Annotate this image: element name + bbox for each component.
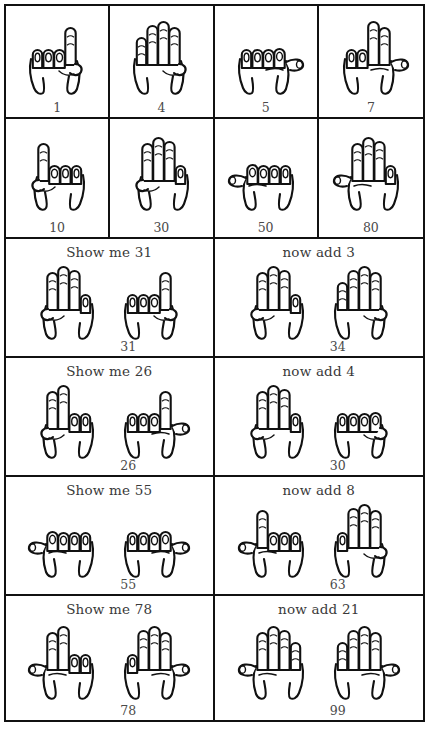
cell-value: 80 bbox=[319, 220, 423, 235]
cell-prompt: Show me 78 bbox=[6, 601, 213, 617]
chart-cell: Show me 7878 bbox=[6, 596, 215, 720]
chart-cell: now add 863 bbox=[215, 477, 424, 594]
hand-illustration-group bbox=[6, 123, 108, 219]
hand-illustration-group bbox=[215, 378, 424, 459]
chart-cell: 80 bbox=[319, 119, 423, 237]
cell-value: 1 bbox=[6, 100, 108, 115]
chart-row-3: Show me 3131now add 334 bbox=[6, 239, 423, 358]
cell-value: 30 bbox=[215, 458, 424, 473]
hand-seven-icon bbox=[331, 12, 411, 98]
chart-cell: 50 bbox=[215, 119, 319, 237]
hand-zero-icon bbox=[322, 376, 402, 462]
chart-row-6: Show me 7878now add 2199 bbox=[6, 596, 423, 720]
hand-five-icon bbox=[226, 128, 306, 214]
hand-eight-icon bbox=[112, 617, 192, 703]
chart-cell: now add 2199 bbox=[215, 596, 424, 720]
hand-three-icon bbox=[322, 495, 402, 581]
hand-one-icon bbox=[17, 128, 97, 214]
chart-cell: Show me 2626 bbox=[6, 358, 215, 475]
chart-row-5: Show me 5555now add 863 bbox=[6, 477, 423, 596]
chart-cell: now add 334 bbox=[215, 239, 424, 356]
chart-row-4: Show me 2626now add 430 bbox=[6, 358, 423, 477]
hand-illustration-group bbox=[6, 497, 213, 578]
chart-cell: Show me 5555 bbox=[6, 477, 215, 594]
cell-value: 7 bbox=[319, 100, 423, 115]
hand-five-icon bbox=[112, 495, 192, 581]
cell-value: 55 bbox=[6, 577, 213, 592]
hand-two-icon bbox=[26, 376, 106, 462]
hand-illustration-group bbox=[6, 10, 108, 99]
cell-value: 4 bbox=[110, 100, 212, 115]
chart-cell: 10 bbox=[6, 119, 110, 237]
hand-illustration-group bbox=[319, 123, 423, 219]
chart-row-2: 10305080 bbox=[6, 119, 423, 239]
hand-six-icon bbox=[236, 495, 316, 581]
hand-three-icon bbox=[121, 128, 201, 214]
hand-five-icon bbox=[226, 12, 306, 98]
chart-cell: Show me 3131 bbox=[6, 239, 215, 356]
hand-three-icon bbox=[26, 257, 106, 343]
finger-counting-chart: 145710305080Show me 3131now add 334Show … bbox=[4, 4, 425, 722]
cell-value: 99 bbox=[215, 703, 424, 718]
hand-illustration-group bbox=[6, 616, 213, 704]
hand-illustration-group bbox=[110, 10, 212, 99]
cell-prompt: now add 21 bbox=[215, 601, 424, 617]
hand-illustration-group bbox=[215, 497, 424, 578]
hand-five-icon bbox=[26, 495, 106, 581]
hand-six-icon bbox=[112, 376, 192, 462]
cell-value: 30 bbox=[110, 220, 212, 235]
hand-illustration-group bbox=[215, 123, 317, 219]
hand-eight-icon bbox=[331, 128, 411, 214]
cell-value: 26 bbox=[6, 458, 213, 473]
chart-cell: 30 bbox=[110, 119, 214, 237]
hand-nine-icon bbox=[322, 617, 402, 703]
cell-value: 63 bbox=[215, 577, 424, 592]
cell-value: 34 bbox=[215, 339, 424, 354]
chart-cell: 7 bbox=[319, 6, 423, 117]
hand-seven-icon bbox=[26, 617, 106, 703]
cell-value: 10 bbox=[6, 220, 108, 235]
hand-nine-icon bbox=[236, 617, 316, 703]
hand-one-icon bbox=[17, 12, 97, 98]
hand-four-icon bbox=[121, 12, 201, 98]
hand-illustration-group bbox=[215, 616, 424, 704]
chart-cell: now add 430 bbox=[215, 358, 424, 475]
hand-illustration-group bbox=[110, 123, 212, 219]
cell-value: 31 bbox=[6, 339, 213, 354]
hand-illustration-group bbox=[215, 10, 317, 99]
hand-illustration-group bbox=[6, 259, 213, 340]
chart-cell: 5 bbox=[215, 6, 319, 117]
hand-illustration-group bbox=[215, 259, 424, 340]
hand-illustration-group bbox=[6, 378, 213, 459]
chart-cell: 4 bbox=[110, 6, 214, 117]
hand-one-icon bbox=[112, 257, 192, 343]
cell-value: 78 bbox=[6, 703, 213, 718]
chart-row-1: 1457 bbox=[6, 6, 423, 119]
cell-value: 5 bbox=[215, 100, 317, 115]
hand-three-icon bbox=[236, 257, 316, 343]
cell-value: 50 bbox=[215, 220, 317, 235]
hand-four-icon bbox=[322, 257, 402, 343]
hand-three-icon bbox=[236, 376, 316, 462]
chart-cell: 1 bbox=[6, 6, 110, 117]
hand-illustration-group bbox=[319, 10, 423, 99]
